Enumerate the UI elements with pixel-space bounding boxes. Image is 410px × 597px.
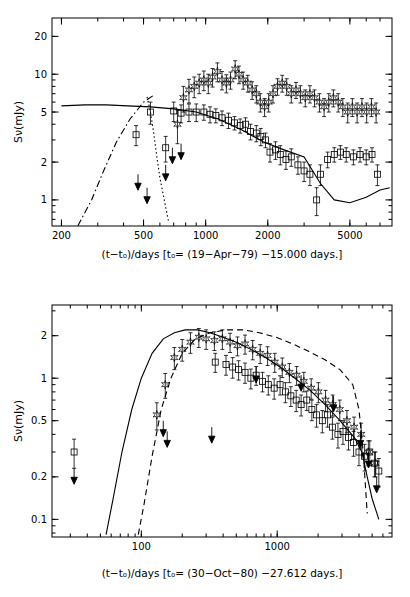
x-tick-label: 1000	[193, 230, 218, 241]
x-axis-caption: (t−t₀)/days [t₀= (19−Apr−79) −15.000 day…	[102, 248, 343, 260]
figure-root: 2005001000200050001251020Sν(mJy)(t−t₀)/d…	[0, 0, 410, 597]
x-tick-label: 5000	[337, 230, 362, 241]
series-downward-arrow	[135, 144, 184, 204]
y-tick-label: 5	[41, 107, 47, 118]
chart-svg-bottom: 10010000.10.20.512Sν(mJy)(t−t₀)/days [t₀…	[0, 295, 410, 597]
y-tick-label: 0.5	[31, 415, 47, 426]
y-tick-label: 2	[41, 330, 47, 341]
y-tick-label: 20	[34, 31, 47, 42]
x-axis-caption: (t−t₀)/days [t₀= (30−Oct−80) −27.612 day…	[102, 567, 343, 579]
y-axis-label: Sν(mJy)	[12, 400, 25, 442]
data-series	[71, 328, 382, 492]
y-tick-label: 0.2	[31, 471, 47, 482]
y-tick-label: 0.1	[31, 514, 47, 525]
y-tick-label: 2	[41, 157, 47, 168]
y-axis-label: Sν(mJy)	[12, 101, 25, 143]
y-tick-label: 1	[41, 373, 47, 384]
x-tick-label: 500	[134, 230, 153, 241]
series-open-star	[153, 328, 379, 476]
x-tick-label: 1000	[264, 541, 289, 552]
model-curve-dashed	[138, 330, 367, 535]
x-tick-label: 100	[132, 541, 151, 552]
chart-panel-top: 2005001000200050001251020Sν(mJy)(t−t₀)/d…	[0, 0, 410, 285]
y-tick-label: 10	[34, 69, 47, 80]
model-curve-dashdot	[78, 95, 154, 226]
y-tick-label: 1	[41, 194, 47, 205]
series-open-star	[174, 61, 380, 144]
chart-panel-bottom: 10010000.10.20.512Sν(mJy)(t−t₀)/days [t₀…	[0, 295, 410, 597]
model-curves	[61, 95, 389, 226]
x-tick-label: 2000	[255, 230, 280, 241]
series-open-square	[71, 353, 382, 486]
chart-svg-top: 2005001000200050001251020Sν(mJy)(t−t₀)/d…	[0, 0, 410, 285]
x-tick-label: 200	[52, 230, 71, 241]
